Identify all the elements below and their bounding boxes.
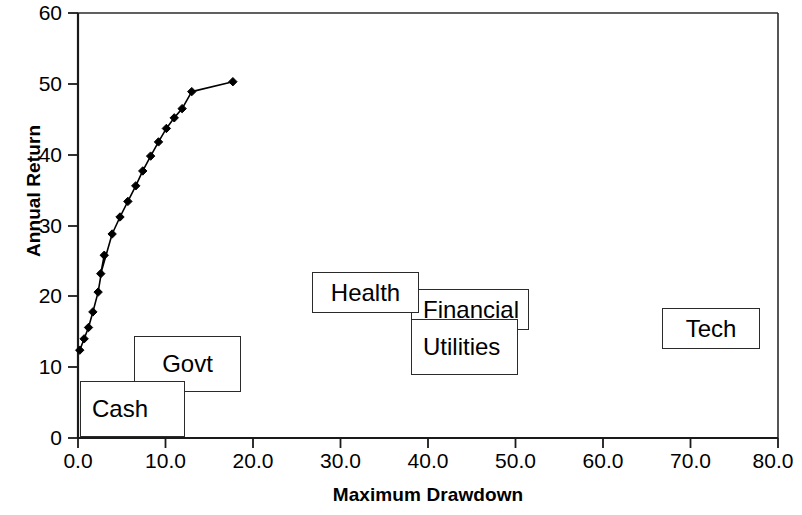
scatter-chart: 0 10 20 30 40 50 60 0.0 10.0 20.0 30.0 4… [0, 0, 802, 515]
x-axis-ticks [78, 438, 778, 448]
x-tick-20: 20.0 [213, 449, 293, 472]
x-tick-60: 60.0 [563, 449, 643, 472]
callout-label-tech: Tech [663, 317, 759, 341]
callout-label-cash: Cash [81, 397, 184, 421]
callout-label-health: Health [313, 281, 418, 305]
x-tick-70: 70.0 [651, 449, 731, 472]
x-tick-40: 40.0 [388, 449, 468, 472]
x-axis-title: Maximum Drawdown [78, 484, 778, 506]
y-tick-60: 60 [0, 2, 62, 23]
data-series-efficient-frontier [76, 78, 238, 355]
y-tick-0: 0 [0, 427, 62, 448]
callout-label-govt: Govt [135, 352, 240, 376]
callout-box-tech: Tech [662, 308, 760, 349]
plot-canvas [0, 0, 802, 515]
x-tick-30: 30.0 [301, 449, 381, 472]
callout-label-utilities: Utilities [412, 335, 517, 359]
x-tick-0: 0.0 [38, 449, 118, 472]
callout-box-utilities: Utilities [411, 319, 518, 375]
y-axis-title: Annual Return [23, 71, 45, 311]
x-tick-50: 50.0 [476, 449, 556, 472]
x-tick-80: 80.0 [733, 449, 802, 472]
callout-box-health: Health [312, 272, 419, 313]
callout-label-financial: Financial [412, 298, 528, 322]
x-tick-10: 10.0 [126, 449, 206, 472]
y-axis-ticks [68, 13, 78, 438]
y-tick-10: 10 [0, 356, 62, 377]
callout-box-cash: Cash [80, 381, 185, 437]
